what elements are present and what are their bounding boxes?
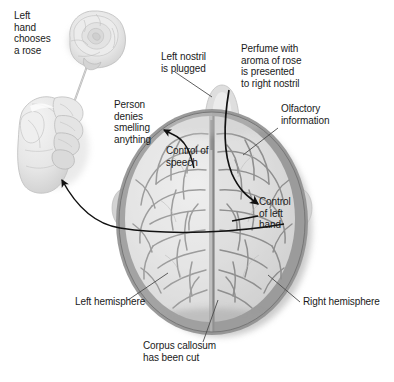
leader-left-nostril (175, 72, 212, 97)
label-person-denies: Person denies smelling anything (114, 99, 151, 145)
label-left-hand-chooses-rose: Left hand chooses a rose (14, 10, 51, 56)
leader-corpus-callosum (203, 300, 218, 342)
leader-right-hemisphere (268, 275, 300, 302)
label-right-hemisphere: Right hemisphere (303, 296, 380, 308)
leader-olfactory (243, 128, 278, 155)
label-perfume-presented: Perfume with aroma of rose is presented … (241, 43, 301, 89)
leader-control-left-hand (232, 216, 258, 221)
label-left-hemisphere: Left hemisphere (75, 296, 145, 308)
label-control-of-speech: Control of speech (166, 145, 208, 168)
label-corpus-callosum-cut: Corpus callosum has been cut (143, 340, 216, 363)
split-brain-diagram: Left hand chooses a rose Person denies s… (0, 0, 394, 382)
label-left-nostril-plugged: Left nostril is plugged (161, 51, 206, 74)
label-olfactory-information: Olfactory information (281, 103, 329, 126)
label-control-of-left-hand: Control of left hand (259, 196, 291, 231)
arrow-brain-to-hand (62, 180, 284, 232)
